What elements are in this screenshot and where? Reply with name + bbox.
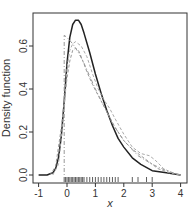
y-tick-label: 0.2 — [18, 125, 29, 139]
y-tick-label: 0.0 — [18, 168, 29, 182]
y-axis: 0.00.20.40.6 — [18, 39, 33, 182]
series-density-dotdash-boundary — [64, 35, 180, 175]
x-tick-label: -1 — [34, 188, 43, 199]
x-tick-label: 1 — [93, 188, 99, 199]
series-density-solid — [39, 20, 181, 175]
series-density-dashed-1 — [50, 48, 181, 175]
x-tick-label: 3 — [149, 188, 155, 199]
rug-marks — [64, 177, 152, 182]
x-tick-label: 4 — [178, 188, 184, 199]
y-axis-label: Density function — [0, 59, 12, 137]
series-layer — [39, 20, 181, 175]
y-tick-label: 0.4 — [18, 82, 29, 96]
plot-frame — [33, 13, 187, 183]
density-chart: -101234 0.00.20.40.6 x Density function — [0, 0, 195, 212]
x-axis-label: x — [106, 197, 113, 209]
y-tick-label: 0.6 — [18, 39, 29, 53]
x-tick-label: 2 — [121, 188, 127, 199]
x-tick-label: 0 — [64, 188, 70, 199]
series-density-dashed-2 — [53, 42, 181, 175]
